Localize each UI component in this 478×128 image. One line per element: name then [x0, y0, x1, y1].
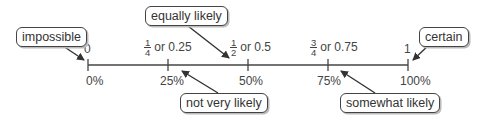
percent-0: 0%	[86, 74, 103, 88]
callout-impossible: impossible	[16, 27, 87, 47]
percent-25: 25%	[160, 74, 184, 88]
label-one-half: 1 2 or 0.5	[230, 38, 271, 57]
callout-equally-likely: equally likely	[145, 6, 228, 26]
percent-100: 100%	[400, 74, 431, 88]
callout-not-very-likely: not very likely	[180, 93, 268, 113]
fraction-one-quarter: 1 4	[144, 38, 151, 57]
arrow-somewhat-likely-icon	[341, 71, 375, 93]
fraction-one-half: 1 2	[230, 38, 237, 57]
label-one-quarter: 1 4 or 0.25	[144, 38, 192, 57]
label-three-quarters: 3 4 or 0.75	[310, 38, 358, 57]
callout-certain: certain	[419, 27, 469, 47]
arrow-equally-likely-icon	[188, 26, 229, 58]
probability-number-line-diagram: 0 1 4 or 0.25 1 2 or 0.5 3 4 or 0.75 1 0…	[0, 0, 478, 128]
percent-75: 75%	[317, 74, 341, 88]
callout-somewhat-likely: somewhat likely	[340, 93, 440, 113]
percent-50: 50%	[239, 74, 263, 88]
label-one: 1	[404, 42, 411, 56]
fraction-three-quarters: 3 4	[310, 38, 317, 57]
arrow-not-very-likely-icon	[182, 71, 218, 93]
